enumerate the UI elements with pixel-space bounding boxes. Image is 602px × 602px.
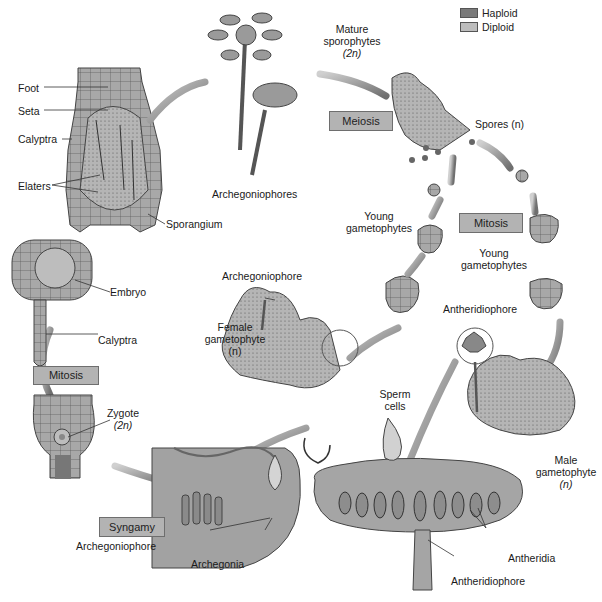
legend-item-diploid: Diploid bbox=[460, 20, 518, 34]
label-seta: Seta bbox=[18, 105, 40, 117]
spore-capsule bbox=[392, 73, 475, 163]
syngamy-box: Syngamy bbox=[99, 517, 165, 537]
label-calyptra-left: Calyptra bbox=[98, 334, 137, 346]
haploid-swatch bbox=[460, 8, 478, 18]
male-gametophyte-illustration bbox=[468, 355, 575, 435]
zygote-illustration bbox=[33, 395, 94, 479]
legend-label: Haploid bbox=[482, 7, 518, 19]
label-zygote: Zygote (2n) bbox=[105, 407, 141, 431]
young-gametophytes bbox=[386, 170, 562, 313]
mitosis-box-left: Mitosis bbox=[33, 366, 99, 385]
label-female-gametophyte: Female gametophyte (n) bbox=[202, 321, 268, 357]
label-mature-sporophytes: Mature sporophytes (2n) bbox=[322, 23, 382, 59]
label-antheridia: Antheridia bbox=[508, 552, 555, 564]
label-calyptra-top: Calyptra bbox=[18, 133, 57, 145]
mitosis-box-right: Mitosis bbox=[459, 213, 523, 233]
label-archegoniophore-mid: Archegoniophore bbox=[222, 270, 302, 282]
meiosis-box: Meiosis bbox=[329, 111, 393, 131]
legend-item-haploid: Haploid bbox=[460, 6, 518, 20]
sporophyte-capsule bbox=[66, 68, 162, 232]
label-sperm-cells: Sperm cells bbox=[375, 388, 415, 412]
life-cycle-artwork bbox=[0, 0, 602, 602]
label-antheridiophore-bottom: Antheridiophore bbox=[451, 575, 525, 587]
label-young-gametophytes-left: Young gametophytes bbox=[340, 210, 418, 234]
diploid-swatch bbox=[460, 22, 478, 32]
label-young-gametophytes-right: Young gametophytes bbox=[455, 247, 533, 271]
label-archegoniophores: Archegoniophores bbox=[212, 188, 297, 200]
label-antheridiophore-top: Antheridiophore bbox=[443, 303, 517, 315]
legend: Haploid Diploid bbox=[460, 6, 518, 34]
label-spores: Spores (n) bbox=[475, 118, 524, 130]
label-embryo: Embryo bbox=[110, 286, 146, 298]
label-archegonia: Archegonia bbox=[191, 558, 244, 570]
label-elaters: Elaters bbox=[18, 180, 51, 192]
embryo-illustration bbox=[12, 240, 92, 366]
label-sporangium: Sporangium bbox=[166, 218, 223, 230]
label-archegoniophore-bottom: Archegoniophore bbox=[76, 540, 156, 552]
legend-label: Diploid bbox=[482, 21, 514, 33]
label-foot: Foot bbox=[18, 82, 39, 94]
archegoniophores-illustration bbox=[208, 13, 297, 175]
label-male-gametophyte: Male gametophyte (n) bbox=[532, 454, 600, 490]
